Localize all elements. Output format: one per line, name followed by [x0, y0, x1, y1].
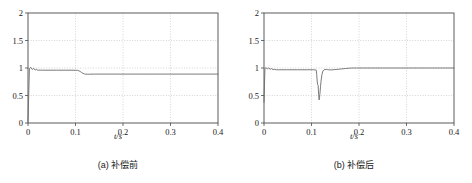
- svg-text:0.5: 0.5: [248, 91, 259, 101]
- x-axis-label-b: t/s: [236, 131, 472, 141]
- svg-text:2: 2: [19, 8, 23, 18]
- svg-text:1: 1: [255, 63, 259, 73]
- svg-text:0: 0: [19, 118, 23, 128]
- svg-text:2: 2: [255, 8, 259, 18]
- svg-text:0: 0: [255, 118, 259, 128]
- svg-text:0.5: 0.5: [12, 91, 23, 101]
- figure-two-panel-comparison: 00.511.5200.10.20.30.4 t/s (a) 补偿前 00.51…: [0, 0, 472, 183]
- panel-caption-b: (b) 补偿后: [236, 158, 472, 171]
- panel-a: 00.511.5200.10.20.30.4 t/s (a) 补偿前: [0, 0, 236, 183]
- line-chart-a: 00.511.5200.10.20.30.4: [0, 0, 236, 150]
- svg-text:1: 1: [19, 63, 23, 73]
- panel-caption-a: (a) 补偿前: [0, 158, 236, 171]
- plot-area-a: 00.511.5200.10.20.30.4: [0, 0, 236, 150]
- svg-text:1.5: 1.5: [12, 36, 23, 46]
- plot-area-b: 00.511.5200.10.20.30.4: [236, 0, 472, 150]
- svg-text:1.5: 1.5: [248, 36, 259, 46]
- panel-b: 00.511.5200.10.20.30.4 t/s (b) 补偿后: [236, 0, 472, 183]
- line-chart-b: 00.511.5200.10.20.30.4: [236, 0, 472, 150]
- x-axis-label-a: t/s: [0, 131, 236, 141]
